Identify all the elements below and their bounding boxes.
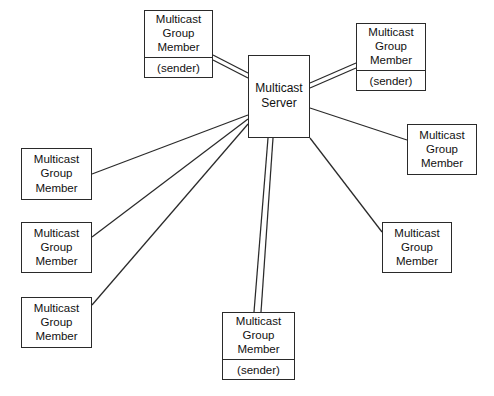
member-label-line3: Member	[370, 53, 412, 67]
multicast-server-node[interactable]: Multicast Server	[248, 55, 310, 138]
link-left-lower	[92, 124, 248, 305]
member-top-right-sender-node[interactable]: Multicast Group Member (sender)	[356, 23, 426, 91]
link-top-left-sender	[213, 55, 248, 78]
server-label-group: Multicast Server	[249, 56, 309, 137]
member-right-lower-node[interactable]: Multicast Group Member	[382, 222, 452, 273]
member-sender-badge: (sender)	[357, 70, 425, 92]
member-sender-label: (sender)	[157, 61, 200, 75]
member-label-line2: Group	[375, 39, 407, 53]
member-label-line1: Multicast	[34, 301, 79, 315]
member-label-group: Multicast Group Member	[357, 24, 425, 70]
member-label-group: Multicast Group Member	[223, 313, 294, 359]
member-label-group: Multicast Group Member	[22, 223, 91, 272]
server-label-line1: Multicast	[255, 81, 302, 96]
member-label-line1: Multicast	[394, 226, 439, 240]
member-label-line1: Multicast	[34, 152, 79, 166]
member-label-line3: Member	[157, 40, 199, 54]
link-bottom-sender	[254, 138, 273, 312]
member-label-group: Multicast Group Member	[22, 298, 91, 347]
link-right-lower	[310, 138, 382, 232]
link-top-right-sender	[310, 63, 356, 88]
diagram-canvas: Multicast Server Multicast Group Member …	[0, 0, 494, 396]
member-label-line2: Group	[41, 315, 73, 329]
member-label-line2: Group	[41, 166, 73, 180]
member-label-line1: Multicast	[368, 25, 413, 39]
member-left-lower-node[interactable]: Multicast Group Member	[21, 297, 92, 348]
member-label-line1: Multicast	[156, 12, 201, 26]
member-sender-label: (sender)	[237, 363, 280, 377]
member-label-line3: Member	[35, 181, 77, 195]
link-left-upper	[92, 115, 248, 174]
member-label-line3: Member	[237, 342, 279, 356]
member-sender-label: (sender)	[370, 74, 413, 88]
member-label-line3: Member	[35, 254, 77, 268]
member-label-line1: Multicast	[419, 128, 464, 142]
member-label-line2: Group	[426, 142, 458, 156]
member-sender-badge: (sender)	[145, 57, 212, 79]
member-label-line2: Group	[41, 240, 73, 254]
member-label-group: Multicast Group Member	[22, 149, 91, 199]
link-left-middle	[92, 119, 248, 237]
link-right-upper	[310, 108, 407, 140]
member-label-line1: Multicast	[34, 226, 79, 240]
member-label-group: Multicast Group Member	[145, 11, 212, 57]
member-bottom-sender-node[interactable]: Multicast Group Member (sender)	[222, 312, 295, 380]
member-label-line2: Group	[243, 328, 275, 342]
member-left-middle-node[interactable]: Multicast Group Member	[21, 222, 92, 273]
member-label-line1: Multicast	[236, 314, 281, 328]
member-label-group: Multicast Group Member	[408, 125, 476, 174]
member-left-upper-node[interactable]: Multicast Group Member	[21, 148, 92, 200]
member-label-line2: Group	[163, 26, 195, 40]
member-top-left-sender-node[interactable]: Multicast Group Member (sender)	[144, 10, 213, 78]
member-sender-badge: (sender)	[223, 359, 294, 381]
member-label-line3: Member	[396, 254, 438, 268]
member-label-line2: Group	[401, 240, 433, 254]
server-label-line2: Server	[261, 96, 296, 111]
member-label-group: Multicast Group Member	[383, 223, 451, 272]
member-right-upper-node[interactable]: Multicast Group Member	[407, 124, 477, 175]
member-label-line3: Member	[35, 329, 77, 343]
member-label-line3: Member	[421, 156, 463, 170]
